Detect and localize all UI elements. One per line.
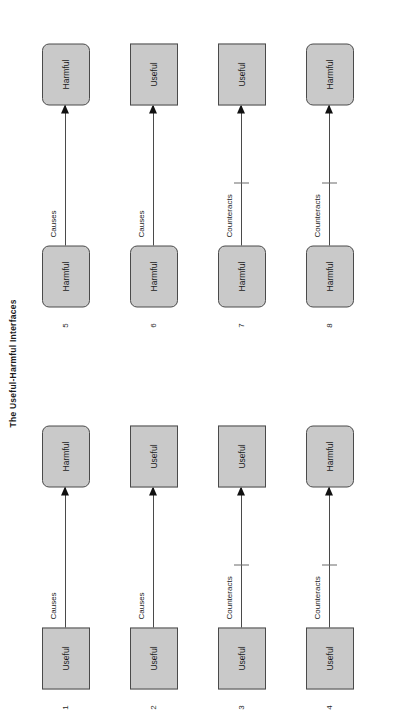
- target-node: Useful: [218, 43, 266, 105]
- row-index: 1: [61, 699, 70, 715]
- relation-label: Counteracts: [225, 194, 234, 237]
- row-index: 4: [325, 699, 334, 715]
- link-line: [241, 487, 242, 627]
- relation-link: Causes: [65, 487, 67, 627]
- source-node: Useful: [218, 627, 266, 689]
- relation-link: Counteracts: [329, 105, 331, 245]
- source-node: Harmful: [130, 245, 178, 307]
- source-node: Useful: [306, 627, 354, 689]
- target-node: Harmful: [42, 43, 90, 105]
- row-index: 5: [61, 317, 70, 333]
- link-line: [153, 105, 154, 245]
- source-node: Harmful: [218, 245, 266, 307]
- relation-label: Causes: [49, 592, 58, 619]
- source-node: Useful: [42, 627, 90, 689]
- relation-label: Counteracts: [313, 194, 322, 237]
- relation-label: Causes: [137, 592, 146, 619]
- row-index: 3: [237, 699, 246, 715]
- relation-link: Causes: [153, 487, 155, 627]
- inhibition-bar-icon: [234, 182, 249, 183]
- source-node: Harmful: [42, 245, 90, 307]
- diagram-canvas: The Useful-Harmful Interfaces 1 Useful C…: [0, 0, 394, 723]
- link-line: [241, 105, 242, 245]
- link-line: [329, 105, 330, 245]
- link-line: [329, 487, 330, 627]
- source-node: Useful: [130, 627, 178, 689]
- row-index: 8: [325, 317, 334, 333]
- relation-label: Counteracts: [225, 576, 234, 619]
- source-node: Harmful: [306, 245, 354, 307]
- inhibition-bar-icon: [322, 564, 337, 565]
- target-node: Harmful: [306, 425, 354, 487]
- target-node: Harmful: [42, 425, 90, 487]
- relation-link: Counteracts: [241, 105, 243, 245]
- row-index: 7: [237, 317, 246, 333]
- relation-link: Counteracts: [241, 487, 243, 627]
- figure-title: The Useful-Harmful Interfaces: [8, 299, 18, 427]
- target-node: Useful: [130, 425, 178, 487]
- link-line: [153, 487, 154, 627]
- relation-label: Causes: [49, 210, 58, 237]
- inhibition-bar-icon: [234, 564, 249, 565]
- relation-label: Counteracts: [313, 576, 322, 619]
- link-line: [65, 105, 66, 245]
- inhibition-bar-icon: [322, 182, 337, 183]
- row-index: 6: [149, 317, 158, 333]
- target-node: Useful: [130, 43, 178, 105]
- relation-label: Causes: [137, 210, 146, 237]
- relation-link: Counteracts: [329, 487, 331, 627]
- link-line: [65, 487, 66, 627]
- relation-link: Causes: [153, 105, 155, 245]
- target-node: Harmful: [306, 43, 354, 105]
- target-node: Useful: [218, 425, 266, 487]
- relation-link: Causes: [65, 105, 67, 245]
- row-index: 2: [149, 699, 158, 715]
